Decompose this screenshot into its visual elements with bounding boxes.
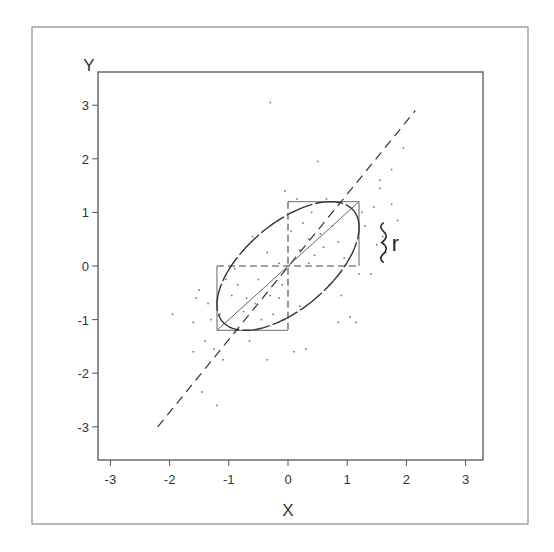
data-point	[249, 340, 251, 342]
data-point	[261, 319, 263, 321]
data-point	[234, 268, 236, 270]
outer-frame	[32, 27, 528, 524]
data-point	[320, 233, 322, 235]
scatter-points	[172, 102, 404, 406]
data-point	[198, 289, 200, 291]
data-point	[195, 297, 197, 299]
data-point	[382, 236, 384, 238]
data-point	[222, 359, 224, 361]
data-point	[379, 187, 381, 189]
data-point	[296, 198, 298, 200]
data-point	[290, 230, 292, 232]
x-axis-title: X	[282, 501, 293, 520]
data-point	[391, 204, 393, 206]
data-point	[243, 311, 245, 313]
x-axis: -3-2-10123	[105, 460, 470, 487]
data-point	[266, 359, 268, 361]
data-point	[338, 321, 340, 323]
curly-brace-icon	[381, 223, 387, 263]
data-point	[323, 246, 325, 248]
x-tick-label: -2	[164, 472, 176, 487]
data-point	[343, 257, 345, 259]
data-point	[308, 238, 310, 240]
data-point	[338, 241, 340, 243]
data-point	[213, 348, 215, 350]
x-tick-label: -3	[105, 472, 117, 487]
data-point	[361, 212, 363, 214]
y-tick-label: 3	[82, 98, 89, 113]
data-point	[349, 316, 351, 318]
data-point	[266, 252, 268, 254]
data-point	[299, 305, 301, 307]
data-point	[258, 279, 260, 281]
x-tick-label: -1	[223, 472, 235, 487]
plot-area	[98, 72, 483, 460]
data-point	[269, 102, 271, 104]
data-point	[397, 220, 399, 222]
x-tick-label: 1	[344, 472, 351, 487]
major-axis-line	[217, 202, 359, 331]
data-point	[403, 147, 405, 149]
y-tick-label: -3	[77, 420, 89, 435]
data-point	[302, 222, 304, 224]
y-axis: 3210-1-2-3	[77, 98, 98, 435]
x-tick-label: 3	[462, 472, 469, 487]
data-point	[204, 340, 206, 342]
data-point	[172, 313, 174, 315]
data-point	[293, 351, 295, 353]
chart: -3-2-10123 3210-1-2-3 X Y r	[0, 0, 554, 552]
data-point	[246, 297, 248, 299]
data-point	[192, 321, 194, 323]
data-point	[231, 295, 233, 297]
data-point	[305, 348, 307, 350]
data-point	[269, 295, 271, 297]
y-axis-title: Y	[83, 56, 94, 75]
data-point	[358, 273, 360, 275]
data-point	[340, 295, 342, 297]
data-point	[237, 284, 239, 286]
data-point	[308, 263, 310, 265]
data-point	[272, 313, 274, 315]
data-point	[379, 179, 381, 181]
data-point	[376, 244, 378, 246]
data-point	[311, 212, 313, 214]
data-point	[317, 161, 319, 163]
data-point	[278, 297, 280, 299]
y-tick-label: -2	[77, 366, 89, 381]
data-point	[373, 206, 375, 208]
data-point	[210, 319, 212, 321]
data-point	[255, 303, 257, 305]
data-point	[207, 303, 209, 305]
r-label: r	[392, 231, 399, 256]
reference-lines	[158, 111, 416, 427]
r-annotation: r	[381, 223, 399, 263]
data-point	[326, 198, 328, 200]
data-point	[281, 284, 283, 286]
y-tick-label: 2	[82, 152, 89, 167]
x-tick-label: 0	[284, 472, 291, 487]
data-point	[299, 249, 301, 251]
data-point	[201, 391, 203, 393]
data-point	[225, 279, 227, 281]
x-tick-label: 2	[403, 472, 410, 487]
data-point	[364, 225, 366, 227]
data-point	[355, 321, 357, 323]
data-point	[278, 263, 280, 265]
data-point	[284, 190, 286, 192]
regression-line	[158, 111, 416, 427]
y-tick-label: -1	[77, 313, 89, 328]
y-tick-label: 1	[82, 205, 89, 220]
data-point	[314, 254, 316, 256]
data-point	[252, 236, 254, 238]
data-point	[192, 351, 194, 353]
y-tick-label: 0	[82, 259, 89, 274]
data-point	[391, 169, 393, 171]
data-point	[216, 405, 218, 407]
data-point	[370, 273, 372, 275]
